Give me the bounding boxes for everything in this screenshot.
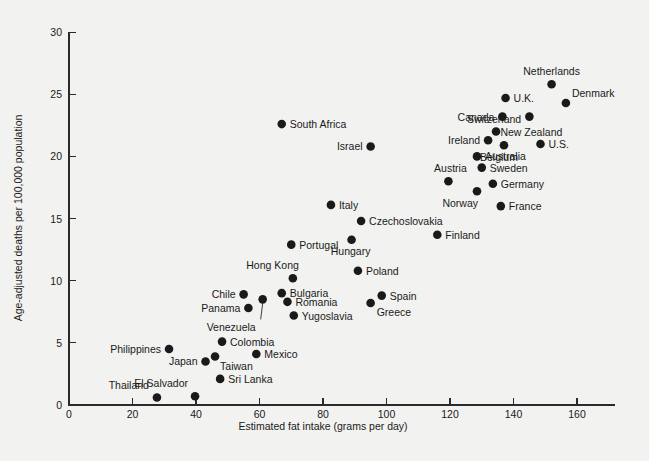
data-point-ireland xyxy=(484,136,493,145)
data-point-chile xyxy=(239,290,248,299)
data-point-sri-lanka xyxy=(216,375,225,384)
point-label-u-k: U.K. xyxy=(514,92,534,104)
data-point-bulgaria xyxy=(277,289,286,298)
point-label-new-zealand: New Zealand xyxy=(500,126,562,138)
x-tick-label: 120 xyxy=(441,408,459,420)
data-point-venezuela xyxy=(258,295,267,304)
point-label-greece: Greece xyxy=(377,306,412,318)
point-label-u-s: U.S. xyxy=(548,138,568,150)
data-point-yugoslavia xyxy=(289,311,298,320)
point-label-bulgaria: Bulgaria xyxy=(290,287,329,299)
point-label-austria: Austria xyxy=(434,162,467,174)
data-point-mexico xyxy=(252,350,261,359)
data-point-panama xyxy=(244,304,253,313)
data-point-netherlands xyxy=(547,80,556,89)
point-label-spain: Spain xyxy=(390,290,417,302)
data-point-germany xyxy=(489,179,498,188)
data-point-labels: ThailandEl SalvadorSri LankaJapanTaiwanM… xyxy=(109,65,616,390)
data-point-portugal xyxy=(287,240,296,249)
point-label-panama: Panama xyxy=(201,302,240,314)
point-label-sri-lanka: Sri Lanka xyxy=(228,373,273,385)
point-label-finland: Finland xyxy=(445,229,480,241)
point-label-poland: Poland xyxy=(366,265,399,277)
point-label-germany: Germany xyxy=(501,178,545,190)
point-label-south-africa: South Africa xyxy=(290,118,347,130)
data-point-south-africa xyxy=(277,120,286,129)
scatter-plot-figure: 020406080100120140160051015202530 Thaila… xyxy=(0,0,649,461)
data-point-italy xyxy=(327,201,336,210)
point-label-belgium: Belgium xyxy=(480,151,518,163)
point-label-philippines: Philippines xyxy=(110,343,161,355)
y-axis-title: Age-adjusted deaths per 100,000 populati… xyxy=(12,115,24,322)
data-point-israel xyxy=(366,142,375,151)
data-point-new-zealand xyxy=(525,112,534,121)
point-label-taiwan: Taiwan xyxy=(220,360,253,372)
label-leader-lines xyxy=(261,303,263,319)
point-label-el-salvador: El Salvador xyxy=(134,377,188,389)
y-tick-label: 10 xyxy=(50,275,62,287)
point-label-netherlands: Netherlands xyxy=(523,65,580,77)
data-point-el-salvador xyxy=(191,392,200,401)
data-point-philippines xyxy=(165,345,174,354)
data-point-norway xyxy=(473,187,482,196)
x-tick-label: 160 xyxy=(568,408,586,420)
x-axis-title: Estimated fat intake (grams per day) xyxy=(238,420,407,432)
point-label-colombia: Colombia xyxy=(230,336,275,348)
data-point-taiwan xyxy=(211,352,220,361)
leader-line-venezuela xyxy=(261,303,263,319)
point-label-italy: Italy xyxy=(339,199,359,211)
data-point-thailand xyxy=(153,393,162,402)
fat-intake-vs-cancer-deaths-scatter: 020406080100120140160051015202530 Thaila… xyxy=(0,0,649,461)
axis-tick-labels: 020406080100120140160051015202530 xyxy=(50,26,586,420)
x-tick-label: 100 xyxy=(378,408,396,420)
data-point-colombia xyxy=(218,337,227,346)
data-point-u-k xyxy=(501,94,510,103)
point-label-yugoslavia: Yugoslavia xyxy=(302,310,353,322)
point-label-japan: Japan xyxy=(169,355,198,367)
data-point-denmark xyxy=(562,99,571,108)
y-tick-label: 30 xyxy=(50,26,62,38)
point-label-france: France xyxy=(509,200,542,212)
data-point-greece xyxy=(366,299,375,308)
data-point-austria xyxy=(444,177,453,186)
data-point-hong-kong xyxy=(289,274,298,283)
point-label-denmark: Denmark xyxy=(572,87,615,99)
point-label-hong-kong: Hong Kong xyxy=(246,259,299,271)
data-point-sweden xyxy=(477,163,486,172)
x-tick-label: 60 xyxy=(254,408,266,420)
y-tick-label: 5 xyxy=(56,337,62,349)
data-point-france xyxy=(497,202,506,211)
point-label-czechoslovakia: Czechoslovakia xyxy=(369,215,443,227)
point-label-mexico: Mexico xyxy=(264,348,297,360)
x-tick-label: 140 xyxy=(505,408,523,420)
point-label-chile: Chile xyxy=(212,288,236,300)
data-point-hungary xyxy=(347,235,356,244)
data-point-spain xyxy=(377,291,386,300)
point-label-israel: Israel xyxy=(337,140,363,152)
data-point-belgium xyxy=(500,141,509,150)
x-tick-label: 40 xyxy=(190,408,202,420)
data-point-u-s xyxy=(536,140,545,149)
point-label-hungary: Hungary xyxy=(331,245,371,257)
data-point-finland xyxy=(433,230,442,239)
point-label-ireland: Ireland xyxy=(448,134,480,146)
point-label-sweden: Sweden xyxy=(490,162,528,174)
x-tick-label: 20 xyxy=(127,408,139,420)
x-tick-label: 0 xyxy=(66,408,72,420)
y-tick-label: 0 xyxy=(56,399,62,411)
x-tick-label: 80 xyxy=(317,408,329,420)
data-point-czechoslovakia xyxy=(357,217,366,226)
y-tick-label: 25 xyxy=(50,88,62,100)
data-point-switzerland xyxy=(492,127,501,136)
y-tick-label: 20 xyxy=(50,150,62,162)
data-point-poland xyxy=(354,266,363,275)
point-label-venezuela: Venezuela xyxy=(207,321,256,333)
data-point-japan xyxy=(201,357,210,366)
point-label-norway: Norway xyxy=(442,197,478,209)
y-tick-label: 15 xyxy=(50,213,62,225)
point-label-canada: Canada xyxy=(458,111,495,123)
